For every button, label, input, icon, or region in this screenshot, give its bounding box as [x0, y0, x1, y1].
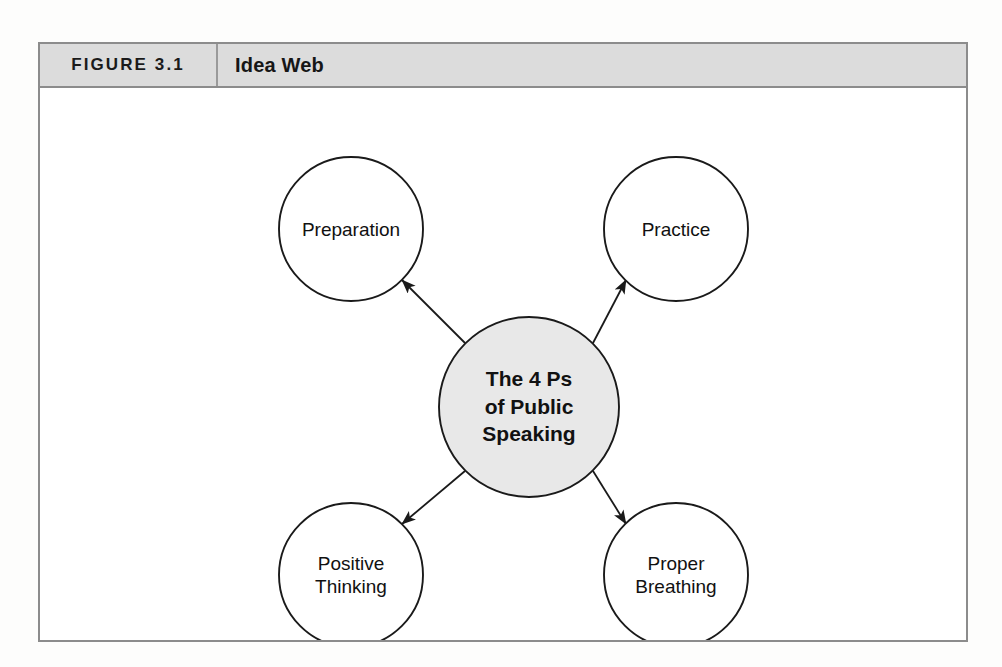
idea-web-graphic — [40, 88, 966, 640]
node-circle-proper-breathing[interactable] — [604, 503, 748, 640]
figure-header: FIGURE 3.1 Idea Web — [40, 44, 966, 88]
node-circle-preparation[interactable] — [279, 157, 423, 301]
idea-web-canvas: Preparation Practice Positive Thinking P… — [40, 88, 966, 640]
figure-title: Idea Web — [235, 54, 324, 77]
figure-number-label: FIGURE 3.1 — [71, 55, 185, 75]
connector-center-to-proper-breathing — [593, 471, 626, 524]
figure-frame: FIGURE 3.1 Idea Web — [38, 42, 968, 642]
connector-center-to-positive-thinking — [402, 471, 465, 524]
connector-center-to-preparation — [402, 280, 465, 343]
figure-number-cell: FIGURE 3.1 — [40, 44, 218, 86]
node-circle-practice[interactable] — [604, 157, 748, 301]
node-circle-positive-thinking[interactable] — [279, 503, 423, 640]
node-circle-center[interactable] — [439, 317, 619, 497]
connector-center-to-practice — [593, 280, 626, 343]
figure-title-cell: Idea Web — [218, 44, 966, 86]
figure-root: FIGURE 3.1 Idea Web — [0, 0, 1002, 667]
